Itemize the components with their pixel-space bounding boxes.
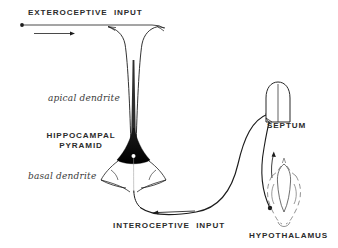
hypothalamus-infundibulum [278,222,290,227]
neuroanatomy-diagram: EXTEROCEPTIVE INPUT apical dendrite HIPP… [0,0,338,248]
label-basal-dendrite: basal dendrite [28,171,96,181]
exteroceptive-afferent-pathway [20,23,165,35]
label-interoceptive-input: INTEROCEPTIVE INPUT [113,221,225,230]
septum-structure [266,82,290,124]
hypothalamus-to-septum-fibre [262,119,270,208]
hypothalamus-lateral-arc-right [294,184,296,204]
label-hippocampal-pyramid-line1: HIPPOCAMPAL [42,131,120,140]
hypothalamus-lateral-arc-left [272,184,274,204]
label-hypothalamus: HYPOTHALAMUS [249,231,328,240]
label-septum: SEPTUM [267,121,306,130]
apical-dendrite-left-branch [108,27,131,148]
label-apical-dendrite: apical dendrite [48,93,120,103]
exteroceptive-fibre-line [22,25,164,28]
hypothalamus-structure [268,158,301,227]
label-hippocampal-pyramid-line2: PYRAMID [42,141,120,150]
exteroceptive-origin-dot [20,23,24,27]
pyramid-to-septum-axon [141,114,268,215]
pyramid-to-septum-pathway [141,112,270,215]
apical-dendrite-right-branch [136,27,157,148]
exteroceptive-direction-arrowhead [70,32,75,36]
basal-dendrite-twig-right [149,170,156,180]
pyramid-axon-initial-segment [134,191,141,208]
hypothalamic-direction-arrowhead [272,151,276,157]
hypothalamus-to-septum-pathway [262,119,276,210]
hippocampal-pyramid-neuron [101,27,166,208]
interoceptive-direction-arrow-shaft [158,211,195,213]
hypothalamic-direction-arrow-shaft [272,154,274,178]
label-exteroceptive-input: EXTEROCEPTIVE INPUT [28,8,143,17]
pyramid-nucleus [132,154,136,158]
hypothalamus-third-ventricle [277,164,290,212]
basal-dendrite-twig-left [111,170,118,180]
